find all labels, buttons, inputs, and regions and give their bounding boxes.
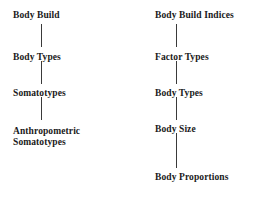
node-body-build-indices: Body Build Indices bbox=[155, 10, 234, 21]
node-body-proportions: Body Proportions bbox=[155, 172, 228, 183]
connector-body-build-indices-to-factor-types bbox=[176, 24, 177, 47]
connector-somatotypes-to-anthropometric-somatotypes bbox=[41, 97, 42, 120]
node-body-size: Body Size bbox=[155, 124, 196, 135]
node-factor-types: Factor Types bbox=[155, 52, 209, 63]
column-body-build: Body Build Body Types Somatotypes Anthro… bbox=[0, 0, 134, 197]
connector-body-types-to-somatotypes bbox=[41, 61, 42, 84]
connector-factor-types-to-body-types bbox=[176, 61, 177, 84]
node-body-types-right: Body Types bbox=[155, 88, 203, 99]
connector-body-types-to-body-size bbox=[176, 97, 177, 120]
node-body-build: Body Build bbox=[13, 10, 60, 21]
column-body-build-indices: Body Build Indices Factor Types Body Typ… bbox=[134, 0, 268, 197]
node-somatotypes: Somatotypes bbox=[13, 88, 66, 99]
flow-chart-diagram: Body Build Body Types Somatotypes Anthro… bbox=[0, 0, 268, 197]
node-anthropometric-somatotypes: Anthropometric Somatotypes bbox=[13, 126, 80, 148]
connector-body-build-to-body-types bbox=[41, 24, 42, 47]
connector-body-size-to-body-proportions bbox=[176, 133, 177, 168]
node-body-types: Body Types bbox=[13, 52, 61, 63]
